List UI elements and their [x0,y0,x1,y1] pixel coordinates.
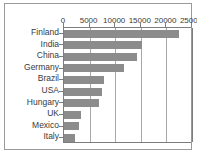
bar-row [64,132,192,144]
bar [64,64,124,72]
bar [64,99,99,107]
y-category-label: USA [11,85,59,97]
x-tick-mark [191,23,192,27]
y-category-label: Hungary [11,97,59,109]
y-category-label: India [11,39,59,51]
chart-screenshot: 0500010000150002000025000 FinlandIndiaCh… [0,0,197,154]
bars-layer [64,28,191,142]
y-category-label: UK [11,108,59,120]
gridline [192,28,193,142]
bar-row [64,121,192,133]
bar-row [64,63,192,75]
bar [64,111,81,119]
y-axis-category-labels: FinlandIndiaChinaGermanyBrazilUSAHungary… [11,27,59,143]
bar [64,41,142,49]
bar [64,122,79,130]
bar [64,30,179,38]
bar-row [64,40,192,52]
bar-row [64,98,192,110]
bar [64,53,137,61]
y-category-label: China [11,50,59,62]
y-category-label: Finland [11,27,59,39]
y-category-label: Germany [11,62,59,74]
bar-row [64,109,192,121]
bar-row [64,51,192,63]
y-category-label: Italy [11,131,59,143]
bar-row [64,86,192,98]
plot-area [63,27,191,143]
chart-frame: 0500010000150002000025000 FinlandIndiaCh… [4,3,192,150]
y-category-label: Mexico [11,120,59,132]
bar-row [64,74,192,86]
bar [64,76,104,84]
y-category-label: Brazil [11,73,59,85]
bar [64,134,75,142]
bar-row [64,28,192,40]
bar [64,88,102,96]
